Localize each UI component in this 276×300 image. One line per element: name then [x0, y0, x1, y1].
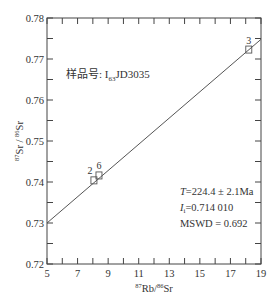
sample-label: 样品号: I63JD3035: [66, 67, 150, 83]
isochron-chart: 57911131517190.720.730.740.750.760.770.7…: [0, 0, 276, 300]
initial-ratio-annotation: Ii=0.714 010: [179, 202, 233, 215]
x-tick-label: 13: [164, 268, 175, 279]
x-axis-label: 87Rb/86Sr: [135, 282, 173, 294]
data-points: 263: [87, 35, 251, 184]
y-axis-label: 87Sr / 86Sr: [13, 121, 25, 161]
x-tick-label: 17: [225, 268, 236, 279]
x-tick-label: 9: [106, 268, 111, 279]
x-tick-label: 7: [75, 268, 80, 279]
y-tick-label: 0.72: [26, 259, 44, 270]
y-tick-label: 0.74: [26, 177, 45, 188]
x-tick-label: 11: [134, 268, 144, 279]
x-tick-label: 19: [256, 268, 267, 279]
y-tick-label: 0.78: [26, 13, 44, 24]
tick-labels: 57911131517190.720.730.740.750.760.770.7…: [26, 13, 267, 280]
data-point-label: 6: [96, 160, 101, 171]
y-tick-label: 0.75: [26, 136, 44, 147]
mswd-annotation: MSWD = 0.692: [180, 218, 247, 229]
y-tick-label: 0.73: [26, 218, 44, 229]
x-tick-label: 5: [44, 268, 49, 279]
x-tick-label: 15: [195, 268, 206, 279]
data-point-label: 3: [246, 35, 251, 46]
y-tick-label: 0.77: [26, 54, 44, 65]
age-annotation: T=224.4 ± 2.1Ma: [180, 186, 254, 197]
data-point-label: 2: [87, 165, 92, 176]
y-tick-label: 0.76: [26, 95, 44, 106]
